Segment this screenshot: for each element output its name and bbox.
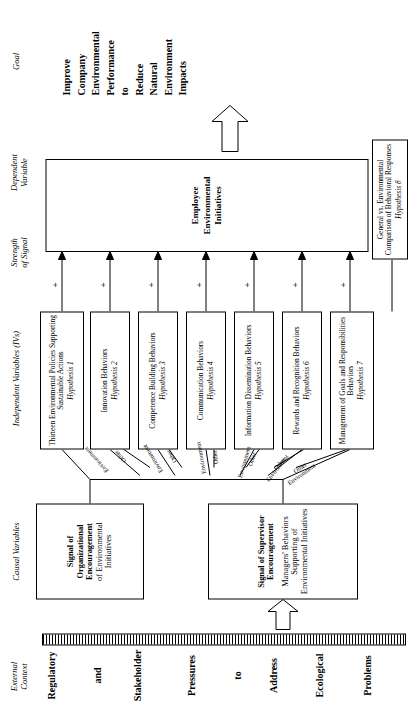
iv-title: Innovation Behaviors [101, 348, 109, 412]
iv-box-7: Management of Goals and Responsibilities… [330, 311, 374, 449]
dependent-variable-label: Employee Environmental Initiatives [190, 169, 225, 241]
connector-label-0: Environment [82, 445, 109, 474]
causal-line: Signal of Supervisor [257, 515, 266, 588]
header-strength-of-signal: Strength of Signal [10, 223, 30, 281]
iv-title: Rewards and Recognition Behaviors [293, 326, 301, 434]
iv-hypothesis: Hypothesis 4 [207, 361, 215, 399]
external-context-item-0: Regulatory [46, 649, 58, 701]
iv-box-5: Information Dissemination Behaviors Hypo… [234, 311, 274, 449]
causal-line: Supporting of [290, 528, 299, 574]
external-context-item-5: Address [268, 649, 280, 701]
iv-title: Communication Behaviors [197, 340, 205, 419]
iv-title: Competence Building Behaviors [149, 332, 157, 428]
iv-hypothesis: Hypothesis 1 [67, 361, 75, 399]
iv-hypothesis: Hypothesis 5 [255, 361, 263, 399]
causal-line: Initiatives [104, 534, 113, 568]
iv-box-6: Rewards and Recognition Behaviors Hypoth… [282, 311, 322, 449]
comparison-hypothesis: Hypothesis 8 [395, 180, 403, 218]
causal-line: Encouragement [266, 523, 275, 580]
goal-line: to [118, 29, 133, 95]
comparison-title: General vs. Environmental Comparison of … [377, 142, 394, 256]
iv-hypothesis: Hypothesis 7 [357, 361, 365, 399]
connector-label-5: Other [211, 449, 219, 464]
plus-sign-6: + [290, 282, 300, 287]
plus-sign-5: + [242, 282, 252, 287]
iv-hypothesis: Hypothesis 6 [303, 361, 311, 399]
goal-line: Natural [147, 29, 162, 95]
causal-line: of Environmental [95, 522, 104, 581]
header-external-context: External Context [10, 649, 30, 703]
causal-line: Managers' Behaviors [281, 516, 290, 587]
goal-line: Company [75, 29, 90, 95]
goal-line: Performance [104, 29, 119, 95]
causal-line: Signal of [66, 535, 75, 566]
external-context-item-4: to [232, 649, 244, 701]
causal-box-supervisor: Signal of Supervisor Encouragement Manag… [208, 503, 358, 599]
dv-line: Environmental [202, 169, 214, 241]
dv-line: Employee [190, 169, 202, 241]
header-dependent-variable: Dependent Variable [10, 139, 30, 205]
header-goal: Goal [12, 41, 22, 81]
iv-title: Thirteen Environmental Policies Supporti… [49, 314, 66, 446]
external-context-item-1: and [92, 649, 104, 701]
goal-text: Improve Company Environmental Performanc… [60, 29, 191, 95]
comparison-box: General vs. Environmental Comparison of … [372, 139, 408, 259]
external-context-item-3: Pressures [186, 649, 198, 701]
causal-line: Organizational [76, 524, 85, 578]
goal-line: Improve [60, 29, 75, 95]
iv-hypothesis: Hypothesis 2 [111, 361, 119, 399]
iv-box-1: Thirteen Environmental Policies Supporti… [40, 311, 84, 449]
iv-title: Information Dissemination Behaviors [245, 324, 253, 436]
dv-line: Initiatives [213, 169, 225, 241]
figure-canvas: External Context Causal Variables Indepe… [0, 0, 416, 711]
goal-line: Environmental [89, 29, 104, 95]
iv-title: Management of Goals and Responsibilities… [339, 314, 356, 446]
plus-sign-2: + [98, 282, 108, 287]
iv-box-4: Communication Behaviors Hypothesis 4 [186, 311, 226, 449]
connector-label-1: Other [113, 449, 128, 464]
plus-sign-1: + [50, 282, 60, 287]
causal-box-organizational: Signal of Organizational Encouragement o… [36, 503, 144, 599]
causal-line: Encouragement [85, 523, 94, 580]
goal-line: Environment [162, 29, 177, 95]
plus-sign-7: + [338, 282, 348, 287]
connector-label-3: Other [165, 448, 178, 464]
causal-line: Environmental Initiatives [300, 508, 309, 593]
iv-box-3: Competence Building Behaviors Hypothesis… [138, 311, 178, 449]
external-context-item-7: Problems [362, 647, 374, 703]
plus-sign-3: + [146, 282, 156, 287]
external-context-item-6: Ecological [314, 645, 326, 705]
iv-hypothesis: Hypothesis 3 [159, 361, 167, 399]
header-causal-variables: Causal Variables [12, 503, 22, 599]
external-context-item-2: Stakeholder [132, 647, 144, 703]
external-context-hatched-bar [42, 633, 406, 645]
plus-sign-4: + [194, 282, 204, 287]
goal-line: Impacts [176, 29, 191, 95]
header-independent-variables: Independent Variables (IVs) [12, 303, 22, 453]
goal-line: Reduce [133, 29, 148, 95]
iv-box-2: Innovation Behaviors Hypothesis 2 [90, 311, 130, 449]
